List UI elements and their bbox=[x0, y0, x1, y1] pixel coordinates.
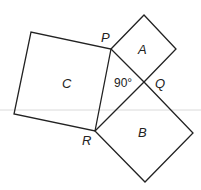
vertex-q-label: Q bbox=[155, 76, 165, 91]
vertex-p-label: P bbox=[101, 30, 110, 45]
right-angle-label: 90° bbox=[114, 76, 132, 90]
square-c-label: C bbox=[62, 76, 72, 91]
vertex-r-label: R bbox=[82, 133, 91, 148]
square-b-label: B bbox=[138, 125, 147, 140]
pythagoras-diagram: P Q R A B C 90° bbox=[0, 0, 201, 190]
square-a-label: A bbox=[137, 42, 147, 57]
